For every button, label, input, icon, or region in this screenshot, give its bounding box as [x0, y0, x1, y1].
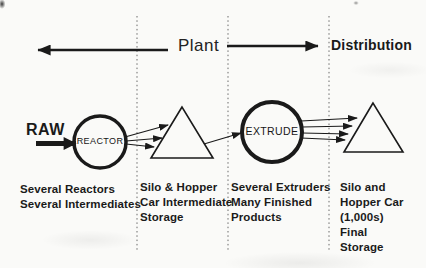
extrude-to-silo-arrow-4	[301, 138, 345, 140]
caption-extruders: Several Extruders Many Finished Products	[231, 180, 331, 225]
silo-to-extrude-arrow	[204, 133, 241, 144]
caption-line: Many Finished	[231, 195, 331, 210]
caption-line: Products	[231, 210, 331, 225]
process-flow-diagram: Plant Distribution RAW REACTOR EXTRUDE S…	[0, 0, 426, 268]
caption-line: Silo & Hopper	[140, 180, 232, 195]
caption-intermediate-storage: Silo & Hopper Car Intermediate Storage	[140, 180, 232, 225]
plant-label: Plant	[178, 36, 219, 56]
reactor-to-silo-arrow-3	[126, 144, 154, 147]
raw-label: RAW	[26, 121, 65, 139]
caption-line: Silo and	[340, 180, 404, 195]
caption-line: (1,000s)	[340, 210, 404, 225]
caption-reactors: Several Reactors Several Intermediates	[20, 182, 141, 212]
intermediate-silo-triangle	[151, 107, 213, 158]
distribution-label: Distribution	[331, 37, 412, 53]
reactor-to-silo-arrow-2	[126, 138, 162, 141]
caption-line: Storage	[140, 210, 232, 225]
reactor-to-silo-arrow-1	[125, 125, 168, 137]
final-silo-triangle	[344, 103, 403, 152]
reactor-label: REACTOR	[72, 136, 128, 146]
extrude-label: EXTRUDE	[242, 125, 302, 137]
extrude-to-silo-arrow-2	[302, 126, 352, 127]
caption-line: Car Intermediate	[140, 195, 232, 210]
caption-line: Hopper Car	[340, 195, 404, 210]
caption-line: Several Intermediates	[20, 197, 141, 212]
caption-line: Several Extruders	[231, 180, 331, 195]
caption-line: Several Reactors	[20, 182, 141, 197]
caption-final-storage: Silo and Hopper Car (1,000s) Final Stora…	[340, 180, 404, 255]
extrude-to-silo-arrow-3	[302, 133, 348, 134]
caption-line: Final	[340, 225, 404, 240]
caption-line: Storage	[340, 240, 404, 255]
